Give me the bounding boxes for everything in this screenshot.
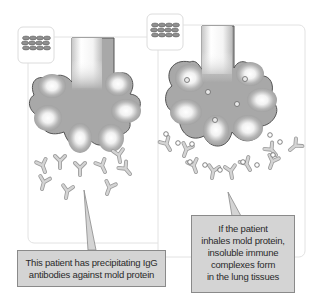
callout-line: If the patient bbox=[192, 223, 294, 235]
callout-line: antibodies against mold protein bbox=[18, 269, 165, 281]
left-panel bbox=[18, 27, 180, 250]
callout-immune-complexes: If the patient inhales mold protein, ins… bbox=[191, 215, 295, 293]
callout-line: complexes form bbox=[192, 259, 294, 271]
mold-icon bbox=[18, 27, 54, 63]
callout-line: inhales mold protein, bbox=[192, 235, 294, 247]
callout-line: insoluble immune bbox=[192, 247, 294, 259]
callout-line: This patient has precipitating IgG bbox=[18, 257, 165, 269]
callout-line: in the lung tissues bbox=[192, 271, 294, 283]
callout-precipitating-igg: This patient has precipitating IgG antib… bbox=[17, 250, 166, 287]
mold-icon bbox=[147, 14, 183, 50]
